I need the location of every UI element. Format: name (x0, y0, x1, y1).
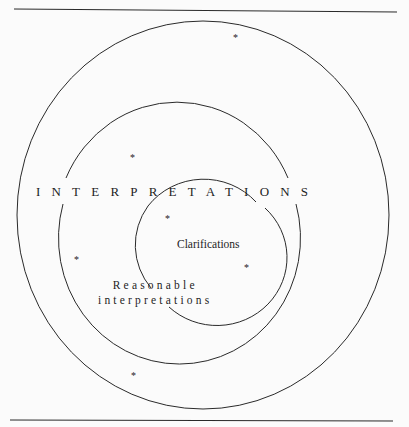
marker-asterisk: * (165, 214, 170, 224)
nested-interpretations-diagram: INTERPRETATIONS Clarifications Reasonabl… (0, 0, 409, 427)
marker-asterisk: * (244, 263, 249, 273)
middle-circle (59, 102, 301, 364)
outer-circle (17, 21, 389, 409)
reasonable-label-line1: Reasonable (98, 278, 212, 293)
top-rule (14, 9, 397, 12)
reasonable-interpretations-label: Reasonable interpretations (98, 278, 212, 308)
clarifications-label: Clarifications (177, 238, 240, 250)
interpretations-label: INTERPRETATIONS (36, 184, 319, 200)
marker-asterisk: * (233, 33, 238, 43)
reasonable-label-line2: interpretations (98, 293, 212, 308)
bottom-rule (10, 420, 393, 421)
marker-asterisk: * (74, 255, 79, 265)
marker-asterisk: * (131, 371, 136, 381)
marker-asterisk: * (130, 153, 135, 163)
diagram-lines (0, 0, 409, 427)
